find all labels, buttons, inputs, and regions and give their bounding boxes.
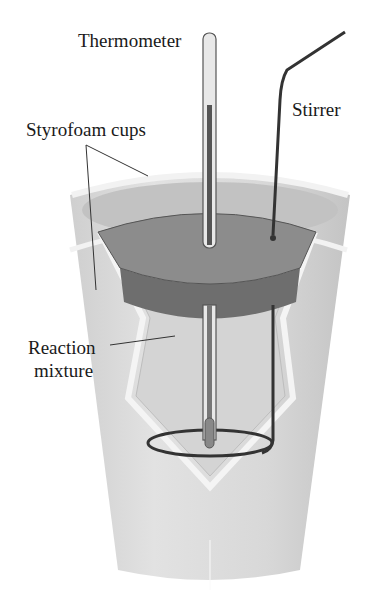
mixture-label-line1: Reaction (28, 338, 96, 357)
calorimeter-diagram (0, 0, 377, 600)
cups-label: Styrofoam cups (26, 120, 146, 139)
thermometer-label: Thermometer (78, 31, 181, 50)
cups-leader-1 (86, 145, 148, 176)
mixture-label-line2: mixture (34, 361, 93, 380)
stirrer-label: Stirrer (292, 100, 341, 119)
